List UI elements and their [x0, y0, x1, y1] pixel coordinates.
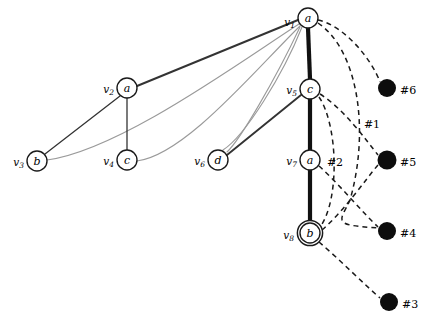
gray-edge-layer	[47, 24, 302, 161]
graph-edge-gray	[137, 26, 300, 161]
graph-edge-gray	[47, 24, 299, 160]
node-name-subscript: 4	[108, 160, 114, 169]
node-letter: a	[305, 12, 312, 25]
graph-edge-solid	[227, 95, 301, 155]
graph-edge-dashed	[318, 20, 380, 82]
node-name-subscript: 7	[292, 160, 297, 169]
node-name-label: v8	[283, 229, 294, 243]
graph-canvas: #6#5#4#3 av1av2bv3cv4cv5dv6av7bv8 #1#2	[0, 0, 422, 323]
node-name-subscript: 3	[19, 161, 24, 170]
node-layer: av1av2bv3cv4cv5dv6av7bv8	[13, 8, 322, 246]
thick-edge-layer	[308, 28, 310, 221]
node-letter: b	[306, 227, 313, 240]
node-name-label: v1	[284, 16, 295, 30]
black-node	[378, 151, 397, 170]
graph-edge-solid	[45, 96, 120, 154]
node-letter: c	[307, 83, 313, 96]
node-letter: a	[124, 82, 131, 95]
node-name-subscript: 5	[292, 89, 297, 98]
black-node	[378, 79, 396, 97]
black-node-label: #3	[402, 298, 418, 311]
node-name-label: v2	[103, 83, 114, 97]
node-name-label: v4	[103, 155, 114, 169]
black-node	[380, 293, 398, 311]
node-name-subscript: 1	[290, 21, 295, 30]
edge-index-label: #2	[327, 156, 343, 169]
node-name-label: v5	[286, 84, 297, 98]
node-name-label: v3	[13, 156, 24, 170]
node-name-label: v7	[286, 155, 297, 169]
graph-edge-dashed	[319, 242, 380, 298]
graph-edge-dashed	[322, 165, 378, 230]
node-letter: b	[33, 155, 40, 168]
node-name-subscript: 2	[108, 88, 114, 97]
node-name-label: v6	[194, 155, 205, 169]
black-node-label: #6	[400, 84, 416, 97]
black-node	[378, 222, 396, 240]
black-node-layer: #6#5#4#3	[378, 79, 419, 311]
graph-diagram: #6#5#4#3 av1av2bv3cv4cv5dv6av7bv8 #1#2	[0, 0, 422, 323]
black-node-label: #4	[400, 227, 416, 240]
solid-edge-layer	[45, 20, 301, 155]
graph-edge-thick	[308, 28, 310, 79]
node-letter: d	[214, 154, 221, 167]
black-node-label: #5	[400, 156, 416, 169]
node-letter: a	[307, 154, 314, 167]
node-name-subscript: 8	[289, 234, 294, 243]
node-letter: c	[124, 154, 130, 167]
node-name-subscript: 6	[200, 160, 205, 169]
edge-index-label: #1	[364, 118, 380, 131]
